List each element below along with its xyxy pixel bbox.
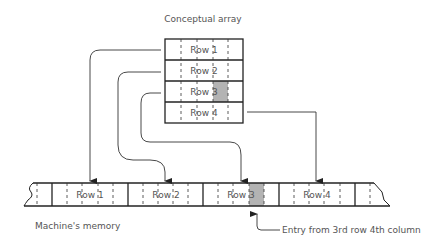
array-row-4-label: Row 4 [190,108,218,118]
memory-row-1-label: Row 1 [76,190,103,200]
array-memory-diagram: Conceptual array Row 1 Row 2 Row 3 Row 4 [0,0,440,245]
entry-annotation: Entry from 3rd row 4th column [282,225,421,235]
array-row-3-label: Row 3 [190,87,217,97]
memory-row-4-label: Row 4 [303,190,331,200]
memory-row-2-label: Row 2 [152,190,179,200]
memory-label: Machine's memory [35,221,121,231]
memory-row-3-label: Row 3 [227,190,254,200]
array-row-1-label: Row 1 [190,45,217,55]
machine-memory-strip: Row 1 Row 2 Row 3 Row 4 [24,183,390,206]
diagram-title: Conceptual array [164,14,242,24]
conceptual-array: Row 1 Row 2 Row 3 Row 4 [165,39,243,123]
array-row-2-label: Row 2 [190,66,217,76]
